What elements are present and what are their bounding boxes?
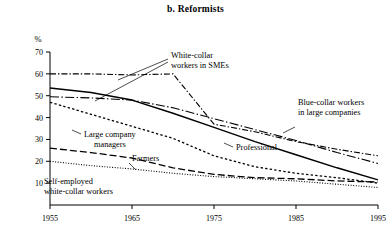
series-annotation-0: White-collar — [171, 51, 213, 60]
y-tick-label: 30 — [35, 135, 43, 144]
y-tick-label: 60 — [35, 70, 43, 79]
series-annotation-1: Blue-collar workers — [298, 98, 364, 107]
x-tick-label: 1975 — [206, 214, 222, 223]
x-tick-label: 1955 — [42, 214, 58, 223]
series-annotation-2: Professional — [236, 143, 278, 152]
leader-farmers — [129, 163, 136, 170]
series-annotation-3-line2: managers — [94, 140, 126, 149]
y-tick-label: 50 — [35, 92, 43, 101]
leader-professional — [224, 143, 233, 147]
chart-container: b. Reformists 10203040506070 19551965197… — [0, 0, 391, 241]
leader-managers — [72, 130, 81, 134]
series-annotation-5: Self-employed — [44, 177, 94, 186]
y-tick-label: 70 — [35, 48, 43, 57]
series-annotation-1-line2: in large companies — [298, 108, 361, 117]
series-annotation-4: Farmers — [132, 154, 159, 163]
y-tick-group: 10203040506070 — [35, 48, 50, 188]
series-annotation-3: Large company — [84, 130, 137, 139]
y-tick-label: 40 — [35, 114, 43, 123]
series-annotation-0-line2: workers in SMEs — [171, 61, 229, 70]
x-tick-label: 1965 — [124, 214, 140, 223]
x-tick-group: 19551965197519851995 — [42, 205, 386, 223]
leader-sme-2 — [95, 62, 168, 101]
y-tick-label: 10 — [35, 179, 43, 188]
x-tick-label: 1995 — [370, 214, 386, 223]
y-axis-unit-label: % — [34, 34, 41, 44]
y-tick-label: 20 — [35, 157, 43, 166]
series-annotation-5-line2: white-collar workers — [44, 187, 113, 196]
axis-group — [50, 52, 378, 205]
leader-sme-1 — [118, 59, 168, 80]
leader-blue-collar — [283, 127, 295, 133]
annotation-leaders — [72, 59, 295, 170]
x-tick-label: 1985 — [288, 214, 304, 223]
chart-svg: 10203040506070 19551965197519851995 % Wh… — [0, 0, 391, 241]
